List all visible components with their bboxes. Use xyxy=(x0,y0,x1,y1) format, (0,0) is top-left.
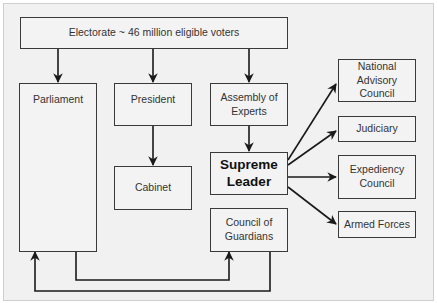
expediency-council-node: Expediency Council xyxy=(338,155,416,199)
electorate-label: Electorate ~ 46 million eligible voters xyxy=(69,26,240,40)
advisory-label: National Advisory Council xyxy=(349,60,405,101)
supreme-leader-label: Supreme Leader xyxy=(220,157,278,189)
electorate-node: Electorate ~ 46 million eligible voters xyxy=(20,17,288,49)
national-advisory-council-node: National Advisory Council xyxy=(338,59,416,102)
expediency-label: Expediency Council xyxy=(349,163,405,190)
parliament-label: Parliament xyxy=(33,93,83,107)
assembly-label: Assembly of Experts xyxy=(217,91,281,118)
president-label: President xyxy=(131,93,175,107)
armed-forces-node: Armed Forces xyxy=(338,211,416,238)
council-of-guardians-node: Council of Guardians xyxy=(210,208,288,252)
guardians-label: Council of Guardians xyxy=(219,216,279,243)
assembly-of-experts-node: Assembly of Experts xyxy=(210,83,288,126)
armed-forces-label: Armed Forces xyxy=(344,218,410,232)
judiciary-node: Judiciary xyxy=(338,116,416,142)
cabinet-node: Cabinet xyxy=(114,166,192,210)
parliament-node: Parliament xyxy=(19,83,97,252)
cabinet-label: Cabinet xyxy=(135,181,171,195)
judiciary-label: Judiciary xyxy=(356,122,397,136)
supreme-leader-node: Supreme Leader xyxy=(210,152,288,195)
president-node: President xyxy=(114,83,192,126)
